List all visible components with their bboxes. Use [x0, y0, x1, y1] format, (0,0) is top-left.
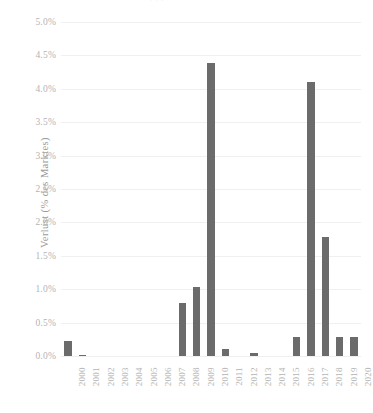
y-axis-tick-label: 1.0% [35, 284, 56, 294]
y-axis-tick-label: 4.5% [35, 50, 56, 60]
gridline [61, 22, 361, 23]
bar [250, 353, 257, 356]
x-axis-tick-labels: 2000200120022003200420052006200720082009… [61, 358, 361, 413]
x-axis-tick-label: 2006 [163, 367, 173, 386]
gridline [61, 356, 361, 357]
chart-title-ghost: · · · [92, 0, 222, 5]
x-axis-tick-label: 2000 [78, 367, 88, 386]
x-axis-tick-label: 2016 [306, 367, 316, 386]
y-axis-tick-label: 3.0% [35, 151, 56, 161]
y-axis-tick-label: 1.5% [35, 251, 56, 261]
bar [307, 82, 314, 356]
bar [336, 337, 343, 356]
x-axis-tick-label: 2009 [206, 367, 216, 386]
y-axis-tick-label: 2.5% [35, 184, 56, 194]
gridline [61, 55, 361, 56]
x-axis-tick-label: 2013 [263, 367, 273, 386]
plot-area: 0.0%0.5%1.0%1.5%2.0%2.5%3.0%3.5%4.0%4.5%… [61, 22, 361, 356]
bar [293, 337, 300, 356]
bar [193, 287, 200, 356]
x-axis-tick-label: 2018 [335, 367, 345, 386]
x-axis-tick-label: 2015 [292, 367, 302, 386]
bar [79, 355, 86, 357]
y-axis-tick-label: 3.5% [35, 117, 56, 127]
x-axis-tick-label: 2008 [192, 367, 202, 386]
x-axis-tick-label: 2020 [363, 367, 373, 386]
x-axis-tick-label: 2003 [120, 367, 130, 386]
bar [322, 237, 329, 356]
y-axis-tick-label: 5.0% [35, 17, 56, 27]
bar [179, 303, 186, 356]
x-axis-tick-label: 2002 [106, 367, 116, 386]
bar [350, 337, 357, 356]
x-axis-tick-label: 2007 [178, 367, 188, 386]
bar [207, 63, 214, 356]
x-axis-tick-label: 2012 [249, 367, 259, 386]
x-axis-tick-label: 2001 [92, 367, 102, 386]
x-axis-tick-label: 2011 [235, 367, 245, 385]
y-axis-tick-label: 0.0% [35, 351, 56, 361]
bar [222, 349, 229, 356]
x-axis-tick-label: 2019 [349, 367, 359, 386]
x-axis-tick-label: 2005 [149, 367, 159, 386]
y-axis-tick-label: 0.5% [35, 318, 56, 328]
y-axis-tick-label: 4.0% [35, 84, 56, 94]
x-axis-tick-label: 2004 [135, 367, 145, 386]
bar [64, 341, 71, 356]
x-axis-tick-label: 2010 [220, 367, 230, 386]
x-axis-tick-label: 2017 [320, 367, 330, 386]
x-axis-tick-label: 2014 [278, 367, 288, 386]
y-axis-tick-label: 2.0% [35, 217, 56, 227]
